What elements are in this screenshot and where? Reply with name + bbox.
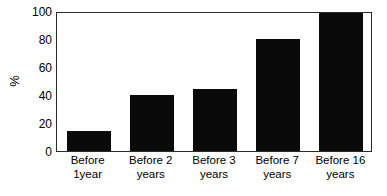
x-axis-label-line1: Before [56, 154, 119, 168]
x-axis-label-line1: Before 16 [309, 154, 372, 168]
x-axis-label-line2: years [119, 168, 182, 182]
y-axis-tick-labels: 100 80 60 40 20 0 [22, 0, 52, 196]
bar [319, 12, 363, 151]
y-tick-label-0: 0 [22, 146, 52, 158]
bars-layer [57, 13, 371, 151]
plot-area [56, 12, 372, 152]
y-tick-label-80: 80 [22, 34, 52, 46]
x-axis-label: Before 16years [309, 154, 372, 181]
bar [67, 131, 111, 151]
bar [256, 39, 300, 151]
bar-chart: % 100 80 60 40 20 0 Before1yearBefore 2y… [0, 0, 387, 196]
y-tick-label-20: 20 [22, 118, 52, 130]
y-tick-label-40: 40 [22, 90, 52, 102]
x-axis-label-line2: years [246, 168, 309, 182]
x-axis-label-line1: Before 3 [182, 154, 245, 168]
x-axis-label-line2: 1year [56, 168, 119, 182]
x-axis-label: Before 7years [246, 154, 309, 181]
y-tick-label-100: 100 [22, 6, 52, 18]
y-tick-label-60: 60 [22, 62, 52, 74]
x-axis-label-line1: Before 2 [119, 154, 182, 168]
bar [193, 89, 237, 151]
x-axis-label: Before 3years [182, 154, 245, 181]
x-axis-category-labels: Before1yearBefore 2yearsBefore 3yearsBef… [56, 154, 372, 196]
x-axis-label-line1: Before 7 [246, 154, 309, 168]
x-axis-label-line2: years [309, 168, 372, 182]
x-axis-label: Before1year [56, 154, 119, 181]
bar [130, 95, 174, 151]
x-axis-label-line2: years [182, 168, 245, 182]
x-axis-label: Before 2years [119, 154, 182, 181]
